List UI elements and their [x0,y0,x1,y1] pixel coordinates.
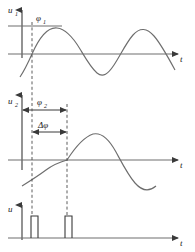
top-phase-label-sub: 1 [43,19,46,25]
delta-phi-label: Δφ [37,120,48,130]
middle-x-axis-label: t [180,160,183,170]
phase-waveform-figure: u 1 t φ 1 u 2 t φ 2 Δφ [0,0,195,252]
pulse-2 [65,216,72,238]
reference-lines [32,22,67,216]
u2-sine-curve [22,134,156,190]
bottom-y-axis-label: u [8,204,13,214]
bottom-x-axis-label: t [180,238,183,248]
panel-top: u 1 t φ 1 [8,5,183,77]
top-x-axis-label: t [180,54,183,64]
top-y-axis-label-sub: 1 [15,11,18,17]
pulse-1 [31,216,38,238]
panel-bottom: u t [8,204,183,248]
top-phase-label: φ [36,13,41,23]
middle-y-axis-label: u [8,96,13,106]
panel-middle: u 2 t φ 2 Δφ [8,95,183,190]
middle-phase-label-sub: 2 [44,103,47,109]
top-y-axis-label: u [8,5,13,15]
u1-sine-curve [20,28,175,77]
middle-y-axis-label-sub: 2 [15,102,18,108]
waveform-svg: u 1 t φ 1 u 2 t φ 2 Δφ [0,0,195,252]
middle-phase-label: φ [37,97,42,107]
